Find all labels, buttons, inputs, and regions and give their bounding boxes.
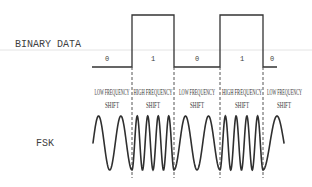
bit-label: 0 xyxy=(270,55,274,63)
bit-label: 1 xyxy=(151,55,155,63)
bit-label: 0 xyxy=(105,55,109,63)
shift-label-line1: LOW FREQUENCY xyxy=(267,88,302,97)
bit-labels: 0 1 0 1 0 xyxy=(105,55,274,63)
shift-label-line2: SHIFT xyxy=(235,101,249,110)
fsk-diagram: BINARY DATA FSK 0 1 0 1 0 LOW FREQUENCY … xyxy=(0,0,312,187)
binary-data-label: BINARY DATA xyxy=(15,39,81,50)
bit-label: 1 xyxy=(240,55,244,63)
shift-label-line1: HIGH FREQUENCY xyxy=(222,88,262,97)
shift-labels: LOW FREQUENCY SHIFT HIGH FREQUENCY SHIFT… xyxy=(95,88,303,110)
fsk-label: FSK xyxy=(36,138,54,149)
fsk-diagram-canvas: BINARY DATA FSK 0 1 0 1 0 LOW FREQUENCY … xyxy=(0,0,312,187)
shift-label-line1: HIGH FREQUENCY xyxy=(134,88,173,97)
binary-square-wave xyxy=(92,15,277,67)
shift-label-line2: SHIFT xyxy=(277,101,291,110)
bit-label: 0 xyxy=(195,55,199,63)
shift-label-line2: SHIFT xyxy=(146,101,160,110)
shift-label-line2: SHIFT xyxy=(105,101,119,110)
shift-label-line1: LOW FREQUENCY xyxy=(95,88,130,97)
shift-label-line1: LOW FREQUENCY xyxy=(179,88,215,97)
shift-label-line2: SHIFT xyxy=(190,101,204,110)
fsk-waveform xyxy=(93,116,284,170)
